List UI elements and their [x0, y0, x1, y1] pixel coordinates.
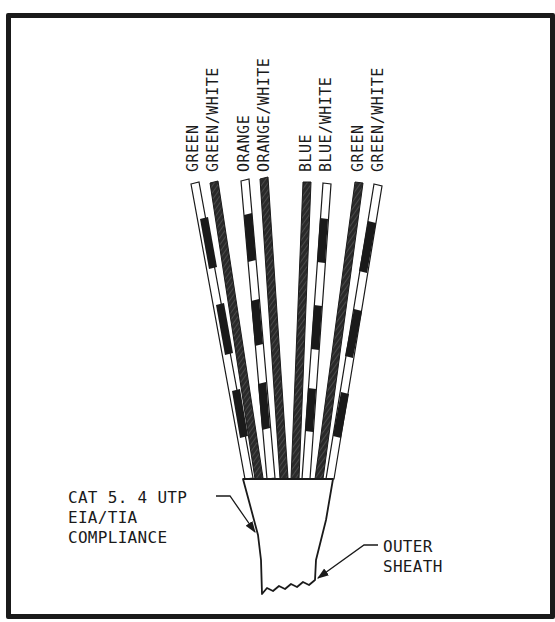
cable-spec-line-3: COMPLIANCE	[68, 528, 167, 547]
wires	[191, 177, 382, 479]
outer-sheath-callout: OUTER SHEATH	[318, 537, 443, 578]
outer-sheath-line-2: SHEATH	[383, 557, 443, 576]
cable-spec-line-2: EIA/TIA	[68, 508, 138, 527]
wire-label-4: ORANGE/WHITE	[255, 58, 273, 172]
cable-spec-line-1: CAT 5. 4 UTP	[68, 488, 187, 507]
outer-sheath-leader-arrow	[318, 545, 378, 578]
cable-spec-callout: CAT 5. 4 UTP EIA/TIA COMPLIANCE	[68, 488, 255, 547]
wire-label-6: BLUE/WHITE	[317, 77, 335, 172]
wire-label-5: BLUE	[297, 134, 315, 172]
cable-diagram: GREEN GREEN/WHITE ORANGE ORANGE/WHITE BL…	[0, 0, 555, 622]
wire-label-3: ORANGE	[235, 115, 253, 172]
wire-label-8: GREEN/WHITE	[369, 67, 387, 172]
wire-labels: GREEN GREEN/WHITE ORANGE ORANGE/WHITE BL…	[184, 58, 387, 172]
wire-label-1: GREEN	[184, 124, 202, 172]
wire-label-7: GREEN	[349, 124, 367, 172]
wire-label-2: GREEN/WHITE	[204, 67, 222, 172]
outer-sheath-line-1: OUTER	[383, 537, 433, 556]
